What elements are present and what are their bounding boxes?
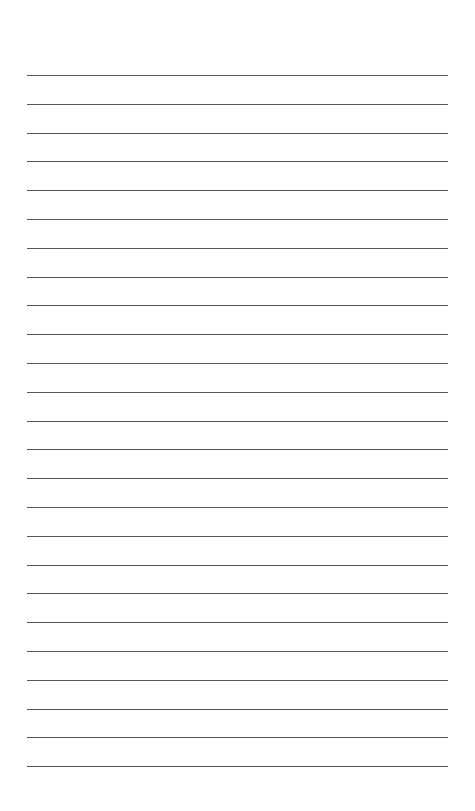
- ruled-line: [27, 709, 448, 710]
- ruled-line: [27, 392, 448, 393]
- ruled-line: [27, 478, 448, 479]
- ruled-line: [27, 305, 448, 306]
- ruled-line: [27, 593, 448, 594]
- ruled-line: [27, 161, 448, 162]
- ruled-line: [27, 219, 448, 220]
- ruled-line: [27, 766, 448, 767]
- ruled-line: [27, 75, 448, 76]
- ruled-line: [27, 622, 448, 623]
- ruled-line: [27, 133, 448, 134]
- ruled-line: [27, 565, 448, 566]
- ruled-line: [27, 651, 448, 652]
- ruled-line: [27, 449, 448, 450]
- ruled-line: [27, 680, 448, 681]
- ruled-line: [27, 363, 448, 364]
- ruled-line: [27, 737, 448, 738]
- ruled-line: [27, 507, 448, 508]
- ruled-line: [27, 104, 448, 105]
- ruled-line: [27, 421, 448, 422]
- ruled-line: [27, 248, 448, 249]
- ruled-line: [27, 536, 448, 537]
- ruled-line: [27, 334, 448, 335]
- ruled-line: [27, 277, 448, 278]
- ruled-line: [27, 190, 448, 191]
